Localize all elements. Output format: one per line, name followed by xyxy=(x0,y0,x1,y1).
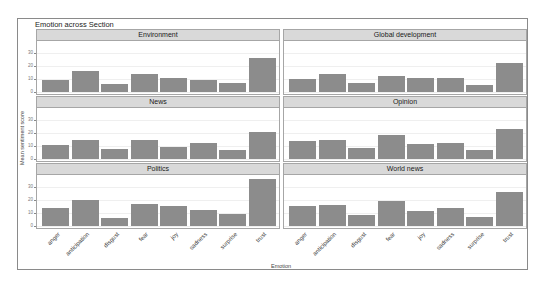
gridline xyxy=(284,187,526,188)
facet-panel: Global development xyxy=(283,29,527,95)
bar-anticipation xyxy=(72,71,99,92)
gridline xyxy=(37,92,279,93)
y-tick-mark xyxy=(34,53,36,54)
bar-joy xyxy=(160,78,187,92)
chart-title: Emotion across Section xyxy=(35,20,114,29)
plot-area xyxy=(36,108,280,162)
bar-joy xyxy=(407,144,434,159)
gridline xyxy=(37,133,279,134)
gridline xyxy=(37,120,279,121)
y-tick-mark xyxy=(34,146,36,147)
y-tick-mark xyxy=(34,213,36,214)
bar-disgust xyxy=(101,84,128,92)
plot-area xyxy=(36,41,280,95)
gridline xyxy=(284,120,526,121)
gridline xyxy=(37,66,279,67)
bar-trust xyxy=(249,58,276,92)
facet-panel: Opinion xyxy=(283,96,527,162)
bar-surprise xyxy=(219,150,246,159)
bar-fear xyxy=(378,76,405,92)
bar-sadness xyxy=(190,210,217,226)
bar-anger xyxy=(42,145,69,159)
bar-fear xyxy=(378,201,405,226)
y-tick-label: 20 xyxy=(19,130,33,135)
bar-sadness xyxy=(437,78,464,92)
bar-sadness xyxy=(437,208,464,226)
bar-fear xyxy=(131,140,158,159)
y-tick-mark xyxy=(34,159,36,160)
gridline xyxy=(37,53,279,54)
bar-disgust xyxy=(348,215,375,226)
facet-panel: Environment xyxy=(36,29,280,95)
gridline xyxy=(37,159,279,160)
y-tick-label: 0 xyxy=(19,89,33,94)
facet-strip-label: Politics xyxy=(36,163,280,175)
plot-area xyxy=(283,108,527,162)
y-tick-label: 30 xyxy=(19,50,33,55)
gridline xyxy=(284,92,526,93)
bar-anticipation xyxy=(319,140,346,159)
bar-sadness xyxy=(190,143,217,159)
plot-area xyxy=(283,41,527,95)
bar-surprise xyxy=(219,214,246,226)
bar-fear xyxy=(378,135,405,159)
y-tick-label: 20 xyxy=(19,63,33,68)
y-tick-label: 30 xyxy=(19,117,33,122)
y-tick-label: 0 xyxy=(19,156,33,161)
bar-anger xyxy=(42,80,69,93)
gridline xyxy=(284,226,526,227)
bar-trust xyxy=(249,179,276,226)
bar-joy xyxy=(160,147,187,160)
bar-surprise xyxy=(466,217,493,226)
bar-sadness xyxy=(190,80,217,93)
gridline xyxy=(284,200,526,201)
facet-panel: World news xyxy=(283,163,527,229)
bar-surprise xyxy=(219,83,246,92)
y-tick-mark xyxy=(34,120,36,121)
bar-trust xyxy=(496,192,523,226)
bar-anticipation xyxy=(72,200,99,226)
bar-joy xyxy=(407,211,434,226)
bar-disgust xyxy=(101,218,128,226)
facet-strip-label: World news xyxy=(283,163,527,175)
bar-anger xyxy=(42,208,69,226)
y-tick-label: 10 xyxy=(19,143,33,148)
bar-anticipation xyxy=(319,74,346,92)
bar-anger xyxy=(289,206,316,226)
bar-surprise xyxy=(466,85,493,92)
plot-area xyxy=(283,175,527,229)
bar-joy xyxy=(160,206,187,226)
facet-panel: Politics xyxy=(36,163,280,229)
bar-surprise xyxy=(466,150,493,159)
gridline xyxy=(284,159,526,160)
gridline xyxy=(37,187,279,188)
bar-trust xyxy=(249,132,276,159)
y-tick-label: 10 xyxy=(19,210,33,215)
bar-anticipation xyxy=(319,205,346,226)
y-tick-mark xyxy=(34,79,36,80)
bar-fear xyxy=(131,74,158,92)
bar-trust xyxy=(496,129,523,159)
bar-joy xyxy=(407,78,434,92)
bar-disgust xyxy=(101,149,128,159)
bar-anticipation xyxy=(72,140,99,159)
bar-sadness xyxy=(437,143,464,159)
y-tick-label: 0 xyxy=(19,223,33,228)
y-tick-label: 10 xyxy=(19,76,33,81)
bar-disgust xyxy=(348,83,375,92)
gridline xyxy=(284,66,526,67)
bar-trust xyxy=(496,63,523,92)
y-axis-label: Mean sentiment score xyxy=(19,98,25,178)
facet-panel: News xyxy=(36,96,280,162)
gridline xyxy=(284,53,526,54)
bar-fear xyxy=(131,204,158,226)
gridline xyxy=(284,133,526,134)
bar-anger xyxy=(289,141,316,159)
bar-anger xyxy=(289,79,316,92)
facet-strip-label: Environment xyxy=(36,29,280,41)
y-tick-mark xyxy=(34,92,36,93)
y-tick-mark xyxy=(34,200,36,201)
y-tick-label: 20 xyxy=(19,197,33,202)
facet-strip-label: News xyxy=(36,96,280,108)
facet-strip-label: Global development xyxy=(283,29,527,41)
